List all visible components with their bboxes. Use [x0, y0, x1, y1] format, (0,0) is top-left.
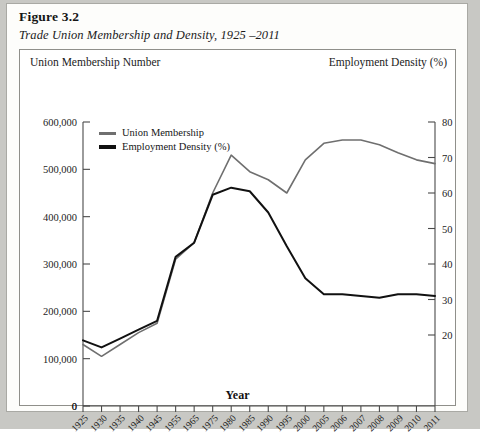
figure-caption: Trade Union Membership and Density, 1925… — [19, 28, 280, 43]
y-axis-left-tick-label: 600,000 — [43, 117, 77, 128]
y-axis-left-tick-label: 300,000 — [43, 259, 77, 270]
y-axis-left-tick-label: 100,000 — [43, 353, 77, 364]
plot-area: Union MembershipEmployment Density (%) 0… — [83, 122, 435, 406]
x-axis-tick-label: 1935 — [107, 413, 128, 434]
x-axis-tick-label: 1955 — [162, 413, 183, 434]
x-axis-tick-label: 1975 — [199, 413, 220, 434]
x-axis-tick-label: 2010 — [403, 413, 424, 434]
y-axis-left-tick-label: 400,000 — [43, 211, 77, 222]
x-axis-tick-label: 2000 — [292, 413, 313, 434]
y-axis-origin-label: 0 — [72, 401, 77, 412]
x-axis-tick-label: 2006 — [329, 413, 350, 434]
y-axis-right-tick-label: 40 — [442, 259, 453, 270]
y-axis-left-tick-label: 500,000 — [43, 164, 77, 175]
x-axis-tick-label: 1945 — [144, 413, 165, 434]
y-axis-right-tick-label: 50 — [442, 223, 453, 234]
x-axis-tick-label: 1925 — [70, 413, 91, 434]
chart-plot-svg — [83, 122, 435, 406]
right-axis-title: Employment Density (%) — [329, 56, 447, 68]
x-axis-tick-label: 1990 — [255, 413, 276, 434]
chart-panel: Union Membership Number Employment Densi… — [19, 49, 456, 406]
x-axis-tick-label: 2009 — [385, 413, 406, 434]
x-axis-tick-label: 2005 — [310, 413, 331, 434]
x-axis-tick-label: 1965 — [181, 413, 202, 434]
figure-number: Figure 3.2 — [19, 9, 79, 25]
y-axis-right-tick-label: 80 — [442, 117, 453, 128]
y-axis-right-tick-label: 20 — [442, 330, 453, 341]
y-axis-left-tick-label: 200,000 — [43, 306, 77, 317]
x-axis-tick-label: 1995 — [273, 413, 294, 434]
y-axis-right-tick-label: 60 — [442, 188, 453, 199]
x-axis-tick-label: 1985 — [236, 413, 257, 434]
x-axis-tick-label: 2011 — [422, 413, 442, 433]
x-axis-tick-label: 1980 — [218, 413, 239, 434]
x-axis-tick-label: 2008 — [366, 413, 387, 434]
figure-sheet: Figure 3.2 Trade Union Membership and De… — [6, 3, 468, 412]
x-axis-tick-label: 2007 — [347, 413, 368, 434]
left-axis-title: Union Membership Number — [30, 56, 160, 68]
x-axis-tick-label: 1940 — [125, 413, 146, 434]
y-axis-right-tick-label: 70 — [442, 152, 453, 163]
x-axis-tick-label: 1930 — [88, 413, 109, 434]
y-axis-right-tick-label: 30 — [442, 294, 453, 305]
